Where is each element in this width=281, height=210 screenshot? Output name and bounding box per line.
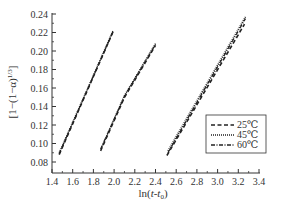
x-tick-label: 2.6 — [170, 176, 183, 187]
group-middle — [101, 44, 156, 151]
x-tick-label: 1.8 — [87, 176, 100, 187]
y-ticks: 0.080.100.120.140.160.180.200.220.24 — [31, 9, 57, 168]
x-tick-label: 2.8 — [191, 176, 204, 187]
y-tick-label: 0.22 — [31, 27, 49, 38]
legend: 25℃ 45℃ 60℃ — [206, 115, 266, 153]
x-tick-label: 3.2 — [232, 176, 245, 187]
y-tick-label: 0.14 — [31, 101, 49, 112]
y-tick-label: 0.16 — [31, 83, 49, 94]
y-tick-label: 0.20 — [31, 46, 49, 57]
y-axis-label: [1−(1−α)1/3] — [6, 66, 19, 119]
x-tick-label: 2.2 — [129, 176, 142, 187]
x-tick-label: 3.4 — [253, 176, 266, 187]
series-dashed — [101, 45, 156, 150]
axes: 0.080.100.120.140.160.180.200.220.24 1.4… — [31, 9, 266, 188]
y-tick-label: 0.18 — [31, 64, 49, 75]
x-axis-label: ln(t-t0) — [138, 187, 168, 201]
x-tick-label: 2.0 — [108, 176, 121, 187]
legend-label-60c: 60℃ — [237, 139, 258, 150]
x-ticks: 1.41.61.82.02.22.42.62.83.03.23.4 — [46, 169, 266, 187]
chart-canvas: 0.080.100.120.140.160.180.200.220.24 1.4… — [0, 0, 281, 210]
series-dashdot — [101, 45, 156, 150]
y-tick-label: 0.08 — [31, 157, 49, 168]
y-tick-label: 0.10 — [31, 138, 49, 149]
group-left — [59, 31, 113, 155]
x-tick-label: 2.4 — [149, 176, 162, 187]
x-tick-label: 1.6 — [66, 176, 79, 187]
x-tick-label: 3.0 — [211, 176, 224, 187]
x-tick-label: 1.4 — [46, 176, 59, 187]
y-tick-label: 0.24 — [31, 9, 49, 20]
y-tick-label: 0.12 — [31, 120, 49, 131]
